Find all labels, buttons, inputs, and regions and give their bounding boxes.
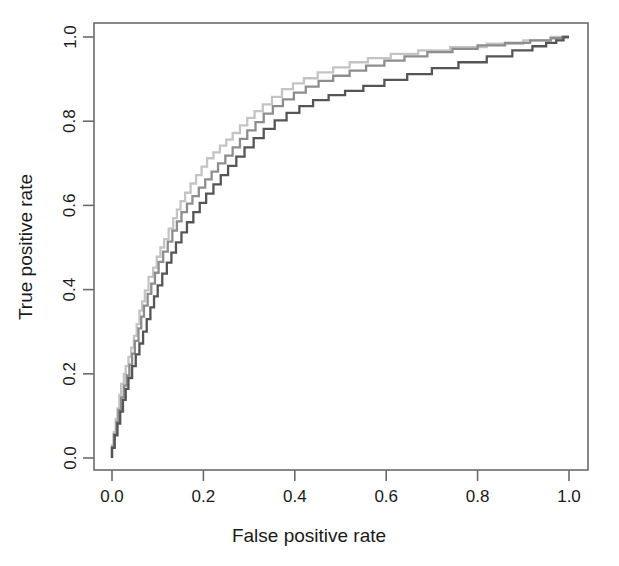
- y-tick-label: 0.2: [61, 362, 80, 386]
- x-tick-label: 0.8: [466, 487, 490, 506]
- x-tick-label: 0.2: [192, 487, 216, 506]
- x-axis-title: False positive rate: [232, 525, 386, 546]
- y-tick-label: 0.4: [61, 278, 80, 302]
- y-tick-label: 0.0: [61, 446, 80, 470]
- y-tick-label: 0.8: [61, 109, 80, 133]
- x-tick-label: 0.0: [100, 487, 124, 506]
- y-tick-label: 0.6: [61, 194, 80, 218]
- roc-plot-page: 0.00.20.40.60.81.0 0.00.20.40.60.81.0 Fa…: [0, 0, 619, 566]
- y-tick-label: 1.0: [61, 25, 80, 49]
- x-tick-label: 1.0: [557, 487, 581, 506]
- roc-chart: 0.00.20.40.60.81.0 0.00.20.40.60.81.0 Fa…: [0, 0, 619, 566]
- chart-background: [0, 0, 619, 566]
- y-axis-title: True positive rate: [15, 174, 36, 320]
- x-tick-label: 0.4: [283, 487, 307, 506]
- x-tick-label: 0.6: [374, 487, 398, 506]
